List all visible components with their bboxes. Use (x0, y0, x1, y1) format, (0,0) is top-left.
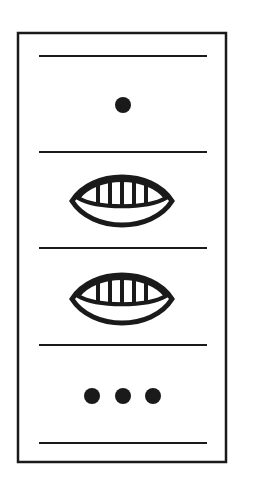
level-2-shell (72, 176, 172, 225)
level-4-three-dots (84, 388, 161, 404)
dot-icon (145, 388, 161, 404)
dot-icon (84, 388, 100, 404)
numeral-diagram (0, 0, 258, 481)
shell-icon (72, 176, 172, 225)
level-1-one-dot (115, 97, 131, 113)
dot-icon (115, 97, 131, 113)
dot-icon (115, 388, 131, 404)
shell-icon (72, 274, 172, 323)
level-3-shell (72, 274, 172, 323)
